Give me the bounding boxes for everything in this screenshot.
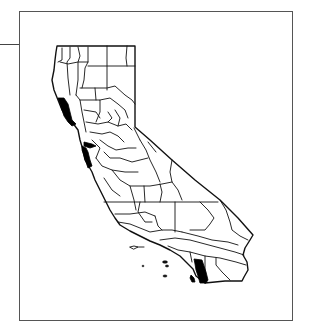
channel-islands [130, 246, 169, 277]
california-county-map [0, 0, 311, 324]
shaded-region-south-coast [190, 275, 195, 282]
